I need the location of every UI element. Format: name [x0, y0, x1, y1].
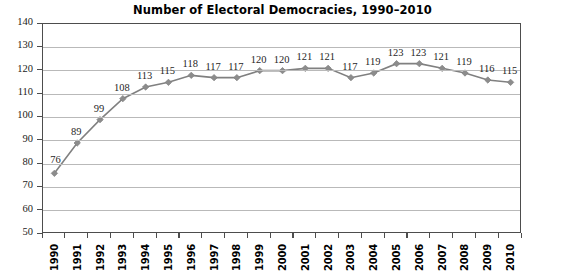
data-point-label: 99: [88, 104, 110, 115]
chart-title: Number of Electoral Democracies, 1990–20…: [0, 3, 565, 17]
data-point-label: 121: [316, 52, 338, 63]
x-axis-tick-label: 1993: [117, 244, 128, 271]
data-point-label: 123: [385, 48, 407, 59]
data-point-label: 117: [339, 62, 361, 73]
x-axis-tick-mark: [452, 233, 453, 238]
data-point-marker: [188, 72, 194, 78]
x-axis-tick-mark: [64, 233, 65, 238]
data-point-label: 123: [407, 48, 429, 59]
x-axis-tick-label: 2008: [459, 244, 470, 271]
x-axis-tick-mark: [338, 233, 339, 238]
data-point-label: 89: [65, 127, 87, 138]
y-axis-tick-mark: [37, 46, 42, 47]
y-axis-tick-label: 130: [3, 40, 33, 51]
y-axis-tick-label: 90: [3, 134, 33, 145]
gridline: [43, 70, 520, 71]
series-line: [54, 64, 510, 174]
x-axis-tick-mark: [498, 233, 499, 238]
gridline: [43, 94, 520, 95]
y-axis-tick-label: 100: [3, 110, 33, 121]
x-axis-tick-label: 2003: [345, 244, 356, 271]
x-axis-tick-mark: [429, 233, 430, 238]
data-point-label: 121: [293, 52, 315, 63]
gridline: [43, 210, 520, 211]
data-point-marker: [142, 84, 148, 90]
x-axis-tick-label: 2001: [300, 244, 311, 271]
x-axis-tick-mark: [315, 233, 316, 238]
x-axis-tick-label: 1994: [140, 244, 151, 271]
y-axis-tick-mark: [37, 209, 42, 210]
x-axis-tick-mark: [270, 233, 271, 238]
x-axis-tick-mark: [521, 233, 522, 238]
x-axis-tick-label: 1991: [72, 244, 83, 271]
data-point-marker: [348, 74, 354, 80]
gridline: [43, 47, 520, 48]
x-axis-tick-mark: [201, 233, 202, 238]
chart-page: Number of Electoral Democracies, 1990–20…: [0, 0, 565, 277]
x-axis-tick-label: 2007: [437, 244, 448, 271]
data-point-label: 121: [430, 52, 452, 63]
y-axis-tick-mark: [37, 139, 42, 140]
data-point-label: 115: [156, 66, 178, 77]
x-axis-tick-mark: [133, 233, 134, 238]
y-axis-tick-label: 50: [3, 227, 33, 238]
gridline: [43, 187, 520, 188]
data-point-label: 119: [362, 57, 384, 68]
x-axis-tick-label: 2000: [277, 244, 288, 271]
y-axis-tick-mark: [37, 116, 42, 117]
data-point-marker: [393, 60, 399, 66]
data-point-marker: [416, 60, 422, 66]
y-axis-tick-label: 60: [3, 204, 33, 215]
data-point-marker: [485, 77, 491, 83]
y-axis-tick-label: 70: [3, 180, 33, 191]
data-point-label: 113: [134, 71, 156, 82]
x-axis-tick-label: 2010: [505, 244, 516, 271]
data-point-label: 118: [179, 59, 201, 70]
x-axis-tick-label: 1999: [254, 244, 265, 271]
x-axis-tick-mark: [406, 233, 407, 238]
x-axis-tick-label: 1992: [95, 244, 106, 271]
x-axis-tick-mark: [475, 233, 476, 238]
x-axis-tick-mark: [384, 233, 385, 238]
data-point-label: 108: [111, 83, 133, 94]
data-point-label: 120: [248, 55, 270, 66]
x-axis-tick-label: 2009: [482, 244, 493, 271]
y-axis-tick-mark: [37, 23, 42, 24]
gridline: [43, 140, 520, 141]
data-point-marker: [234, 74, 240, 80]
x-axis-tick-mark: [224, 233, 225, 238]
y-axis-tick-mark: [37, 186, 42, 187]
x-axis-tick-label: 1990: [49, 244, 60, 271]
x-axis-tick-mark: [247, 233, 248, 238]
data-point-label: 76: [44, 155, 66, 166]
y-axis-tick-label: 120: [3, 64, 33, 75]
x-axis-tick-label: 2005: [391, 244, 402, 271]
y-axis: [0, 23, 42, 234]
x-axis-tick-mark: [87, 233, 88, 238]
data-point-label: 120: [271, 55, 293, 66]
gridline: [43, 164, 520, 165]
data-point-label: 116: [476, 64, 498, 75]
x-axis-tick-label: 2002: [323, 244, 334, 271]
x-axis-tick-mark: [361, 233, 362, 238]
y-axis-tick-mark: [37, 163, 42, 164]
data-point-label: 115: [499, 66, 521, 77]
x-axis-tick-mark: [42, 233, 43, 238]
data-point-label: 117: [225, 62, 247, 73]
y-axis-tick-label: 80: [3, 157, 33, 168]
y-axis-tick-mark: [37, 93, 42, 94]
x-axis-tick-mark: [156, 233, 157, 238]
x-axis-tick-label: 1997: [209, 244, 220, 271]
data-point-marker: [507, 79, 513, 85]
x-axis-tick-label: 1998: [231, 244, 242, 271]
y-axis-tick-mark: [37, 69, 42, 70]
y-axis-tick-label: 140: [3, 17, 33, 28]
data-point-label: 119: [453, 57, 475, 68]
y-axis-tick-label: 110: [3, 87, 33, 98]
data-point-marker: [165, 79, 171, 85]
x-axis-tick-label: 1995: [163, 244, 174, 271]
gridline: [43, 117, 520, 118]
data-point-marker: [211, 74, 217, 80]
data-point-label: 117: [202, 62, 224, 73]
x-axis-tick-mark: [110, 233, 111, 238]
